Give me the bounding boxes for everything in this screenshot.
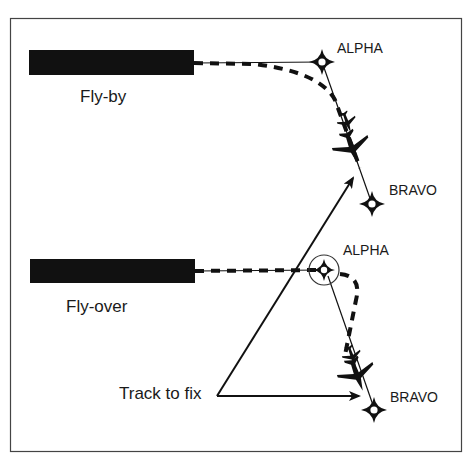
fly-over-section <box>30 255 387 423</box>
callout-arrow-up <box>217 178 353 396</box>
fly-by-waypoint-icon <box>361 397 387 423</box>
fly-by-section <box>29 49 385 217</box>
fly-over-leg-bar <box>30 259 195 283</box>
fly-by-turn-path <box>194 63 360 168</box>
aircraft-icon <box>333 352 380 397</box>
fly-by-bravo-label: BRAVO <box>389 182 437 198</box>
fly-over-label: Fly-over <box>66 297 127 317</box>
fly-by-waypoint-icon <box>309 49 335 75</box>
fly-by-leg-bar <box>29 50 194 75</box>
fly-over-alpha-label: ALPHA <box>343 242 389 258</box>
diagram-frame <box>11 19 462 452</box>
aircraft-icon <box>328 125 375 170</box>
fly-by-waypoint-icon <box>359 191 385 217</box>
fly-by-alpha-label: ALPHA <box>337 40 383 56</box>
fly-over-waypoint-icon <box>313 259 335 281</box>
track-to-fix-callout <box>217 178 359 396</box>
fly-over-track-to-bravo <box>328 276 374 408</box>
fly-by-label: Fly-by <box>80 87 126 107</box>
fly-over-bravo-label: BRAVO <box>390 389 438 405</box>
track-to-fix-label: Track to fix <box>119 384 202 404</box>
